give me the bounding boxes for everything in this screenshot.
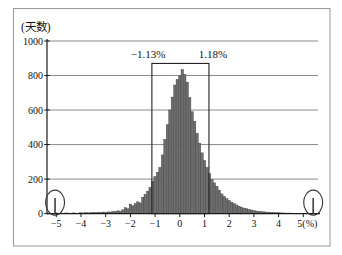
histogram-bin	[193, 121, 195, 213]
x-tick-label: −1	[150, 218, 161, 229]
histogram-bin	[124, 208, 126, 214]
x-tick-label: 5(%)	[297, 218, 317, 230]
histogram-bin	[171, 97, 173, 214]
histogram-bin	[226, 199, 228, 214]
histogram-bin	[216, 186, 218, 213]
histogram-chart: 02004006008001000−5−4−3−2−1012345(%) (天数…	[0, 0, 342, 255]
histogram-bin	[238, 206, 240, 213]
x-tick-label: 0	[177, 218, 182, 229]
histogram-bin	[179, 76, 181, 214]
histogram-bin	[240, 207, 242, 213]
histogram-bin	[159, 167, 161, 213]
histogram-bin	[174, 85, 176, 214]
histogram-bin	[129, 204, 131, 213]
histogram-bin	[203, 160, 205, 213]
x-tick-label: 4	[276, 218, 281, 229]
y-tick-label: 600	[28, 105, 43, 116]
y-tick-label: 1000	[23, 36, 43, 47]
histogram-bin	[184, 74, 186, 213]
y-tick-label: 800	[28, 70, 43, 81]
histogram-bin	[166, 125, 168, 214]
histogram-bin	[149, 187, 151, 213]
histogram-bin	[211, 179, 213, 213]
annotation-left-label: −1.13%	[131, 48, 166, 60]
y-tick-label: 200	[28, 174, 43, 185]
histogram-bin	[230, 202, 232, 213]
histogram-bin	[161, 155, 163, 214]
histogram-bin	[228, 200, 230, 213]
x-tick-label: −2	[125, 218, 136, 229]
histogram-bin	[127, 209, 129, 214]
histogram-bin	[144, 194, 146, 213]
histogram-bin	[233, 204, 235, 214]
histogram-bin	[146, 191, 148, 213]
histogram-bin	[196, 133, 198, 213]
histogram-bin	[223, 196, 225, 213]
histogram-bin	[154, 176, 156, 213]
histogram-bin	[218, 190, 220, 213]
histogram-bin	[134, 204, 136, 214]
figure-panel: 02004006008001000−5−4−3−2−1012345(%) (天数…	[0, 0, 342, 255]
histogram-bars	[55, 69, 304, 213]
x-tick-label: 3	[251, 218, 256, 229]
histogram-bin	[201, 153, 203, 214]
histogram-bin	[137, 202, 139, 214]
y-tick-label: 0	[38, 208, 43, 219]
histogram-bin	[206, 167, 208, 213]
y-tick-label: 400	[28, 139, 43, 150]
annotation-right-label: 1.18%	[199, 48, 227, 60]
x-tick-label: −4	[76, 218, 87, 229]
histogram-bin	[156, 172, 158, 213]
histogram-bin	[186, 82, 188, 214]
histogram-bin	[245, 209, 247, 214]
histogram-bin	[169, 110, 171, 214]
x-tick-label: 2	[227, 218, 232, 229]
x-tick-label: −5	[51, 218, 62, 229]
x-tick-label: −3	[100, 218, 111, 229]
histogram-bin	[191, 112, 193, 214]
histogram-bin	[248, 209, 250, 213]
histogram-bin	[139, 203, 141, 214]
histogram-bin	[142, 197, 144, 213]
histogram-bin	[213, 183, 215, 214]
histogram-bin	[221, 194, 223, 214]
histogram-bin	[176, 79, 178, 213]
histogram-bin	[188, 98, 190, 214]
x-tick-label: 1	[202, 218, 207, 229]
histogram-bin	[164, 139, 166, 213]
histogram-bin	[198, 143, 200, 213]
y-axis-unit-label: (天数)	[21, 20, 51, 34]
histogram-bin	[132, 206, 134, 214]
histogram-bin	[243, 208, 245, 214]
histogram-bin	[235, 205, 237, 214]
histogram-bin	[181, 69, 183, 213]
